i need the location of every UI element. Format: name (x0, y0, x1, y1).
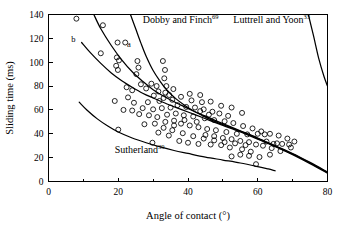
chart-background (0, 0, 344, 228)
y-axis-title: Sliding time (ms) (4, 61, 16, 135)
y-tick-label: 140 (29, 10, 44, 20)
sliding-time-vs-contact-angle-chart: 020406080 020406080100120140 abDobby and… (0, 0, 344, 228)
y-tick-label: 60 (34, 105, 44, 115)
curve-label-sutherland: Sutherland39 (115, 143, 165, 155)
y-tick-label: 80 (34, 81, 44, 91)
x-axis-title: Angle of contact (°) (146, 210, 230, 222)
curve-label-a: a (127, 39, 131, 49)
x-tick-label: 40 (183, 187, 193, 197)
curve-label-luttrell-and-yoon: Luttrell and Yoon33 (233, 13, 310, 25)
y-tick-label: 20 (34, 153, 44, 163)
figure-container: 020406080 020406080100120140 abDobby and… (0, 0, 344, 228)
curve-label-dobby-and-finch: Dobby and Finch69 (143, 13, 219, 25)
x-tick-label: 60 (253, 187, 263, 197)
curve-label-b: b (71, 34, 75, 44)
y-tick-label: 100 (29, 58, 44, 68)
y-tick-label: 40 (34, 129, 44, 139)
x-tick-label: 0 (46, 187, 51, 197)
y-tick-label: 120 (29, 34, 44, 44)
y-tick-label: 0 (39, 177, 44, 187)
x-tick-label: 20 (114, 187, 124, 197)
x-tick-label: 80 (323, 187, 333, 197)
